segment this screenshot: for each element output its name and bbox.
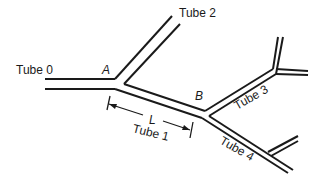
- label-tube-2: Tube 2: [179, 6, 216, 20]
- tube-1: [115, 84, 205, 118]
- label-tube-0: Tube 0: [16, 63, 53, 77]
- label-junction-b: B: [195, 89, 203, 103]
- tube-3: [205, 37, 308, 116]
- arrowhead-right: [182, 125, 190, 130]
- tube-2: [115, 16, 180, 84]
- branching-tube-diagram: Tube 0 Tube 2 A B L Tube 1 Tube 3 Tube 4: [0, 0, 323, 187]
- arrowhead-left: [109, 104, 117, 109]
- tube-0: [45, 79, 115, 89]
- label-junction-a: A: [101, 63, 110, 77]
- label-tube-3: Tube 3: [232, 82, 271, 113]
- label-tube-4: Tube 4: [218, 133, 257, 164]
- tube-4: [202, 116, 298, 173]
- label-tube-1: Tube 1: [131, 121, 171, 144]
